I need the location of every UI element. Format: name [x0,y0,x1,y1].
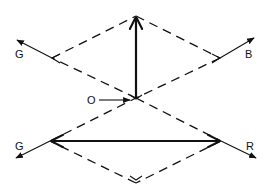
label-g-upper: G [15,48,24,60]
upper-diamond-edge-br [136,58,220,98]
chevron-upper-right-icon [212,54,220,63]
label-o: O [87,94,96,106]
lower-diamond-edge-bl [50,141,136,183]
lower-diamond-edge-br [136,141,221,183]
upper-diamond-edge-bl [52,58,136,98]
label-b: B [245,48,252,60]
label-r: R [246,140,254,152]
chevron-bottom-icon [130,176,142,180]
upper-diamond-edge-tr [136,16,220,58]
label-g-lower: G [15,140,24,152]
vector-diagram: G B O G R [0,0,269,196]
upper-diamond-edge-tl [52,16,136,58]
lower-diamond-edge-tr [136,98,221,141]
